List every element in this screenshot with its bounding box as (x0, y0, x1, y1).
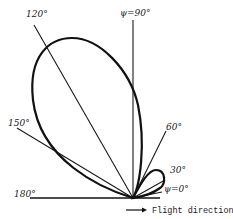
label-150: 150° (8, 118, 30, 128)
label-180: 180° (14, 189, 36, 199)
flight-direction-caption: Flight direction (152, 206, 233, 216)
label-30: 30° (170, 165, 186, 175)
polar-diagram: ψ=90° 120° 150° 60° 30° ψ=0° 180° Flight… (0, 0, 233, 219)
ray-120 (34, 25, 133, 198)
arrow-right-icon (126, 208, 147, 213)
label-60: 60° (166, 122, 182, 132)
label-0: ψ=0° (164, 184, 189, 194)
label-90: ψ=90° (120, 8, 151, 18)
label-120: 120° (26, 9, 48, 19)
ray-150 (17, 128, 133, 198)
